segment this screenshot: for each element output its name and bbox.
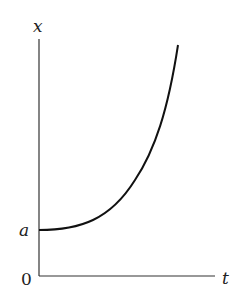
curve-line bbox=[39, 45, 178, 230]
origin-label: 0 bbox=[21, 269, 32, 289]
x-axis-label: t bbox=[222, 268, 229, 288]
chart: x t 0 a bbox=[0, 0, 243, 305]
y-axis-label: x bbox=[33, 16, 43, 36]
intercept-label: a bbox=[19, 220, 29, 240]
